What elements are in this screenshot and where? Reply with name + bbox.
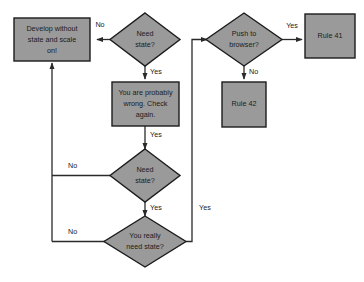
edge-label-need-state-1-no: No: [95, 20, 104, 29]
node-push-to-browser[interactable]: Push to browser?: [206, 13, 282, 66]
node-text-line: wrong. Check: [123, 99, 168, 108]
edge-label-really-need-state-no: No: [68, 227, 77, 236]
edge-label-probably-wrong-yes: Yes: [150, 130, 162, 139]
edge-label-really-need-state-yes: Yes: [199, 203, 211, 212]
node-text-line: Develop without: [26, 24, 77, 33]
flowchart-diagram: No Yes Yes No Yes No: [0, 0, 364, 282]
node-text-line: Push to: [232, 29, 256, 38]
edge-need-state-2-yes: Yes: [145, 202, 162, 216]
node-rule-41[interactable]: Rule 41: [305, 14, 355, 58]
edge-push-to-browser-yes: Yes: [282, 21, 302, 40]
node-text-line: Rule 42: [232, 99, 257, 108]
node-need-state-2[interactable]: Need state?: [110, 149, 180, 202]
edge-probably-wrong-yes: Yes: [145, 126, 162, 149]
edge-label-need-state-2-no: No: [68, 161, 77, 170]
edge-label-need-state-1-yes: Yes: [150, 67, 162, 76]
node-need-state-1[interactable]: Need state?: [110, 13, 180, 66]
edge-label-need-state-2-yes: Yes: [150, 203, 162, 212]
edge-push-to-browser-no: No: [244, 66, 258, 79]
edge-need-state-1-yes: Yes: [145, 66, 162, 79]
node-text-line: You really: [129, 231, 161, 240]
node-probably-wrong[interactable]: You are probably wrong. Check again.: [112, 82, 179, 126]
edge-really-need-state-yes: Yes: [186, 40, 211, 242]
node-text-line: state?: [135, 176, 155, 185]
node-text-line: on!: [47, 46, 57, 55]
node-text-line: You are probably: [118, 88, 172, 97]
node-rule-42[interactable]: Rule 42: [222, 82, 266, 127]
node-text-line: again.: [136, 110, 156, 119]
edge-really-need-state-no: No: [52, 227, 105, 242]
node-text-line: state?: [135, 40, 155, 49]
node-text-line: Need: [136, 165, 153, 174]
node-text-line: state and scale: [28, 35, 76, 44]
node-text-line: Rule 41: [318, 31, 343, 40]
node-text-line: browser?: [229, 40, 259, 49]
edge-need-state-2-no: No: [52, 161, 110, 176]
edge-label-push-to-browser-no: No: [249, 67, 258, 76]
edge-label-push-to-browser-yes: Yes: [286, 21, 298, 30]
flowchart-svg-canvas: No Yes Yes No Yes No: [0, 0, 364, 282]
node-develop-without-state[interactable]: Develop without state and scale on!: [14, 18, 90, 61]
node-text-line: Need: [136, 29, 153, 38]
node-really-need-state[interactable]: You really need state?: [104, 216, 186, 267]
edge-need-state-1-no: No: [95, 20, 110, 40]
node-text-line: need state?: [126, 242, 164, 251]
